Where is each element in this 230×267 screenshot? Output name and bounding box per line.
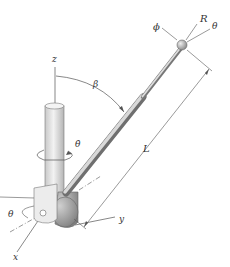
R-label: R <box>199 13 208 24</box>
x-axis-label: x <box>13 252 18 262</box>
pivot-pin <box>40 210 46 216</box>
theta-tip-direction-line <box>187 29 210 42</box>
theta-base-rotation-arrow <box>0 197 35 218</box>
L-arrowhead-bottom <box>84 221 88 227</box>
beta-label: β <box>92 79 98 89</box>
theta-base-label: θ <box>8 209 14 219</box>
clevis-block <box>34 184 57 223</box>
L-extension-top <box>187 50 212 71</box>
theta-tip-label: θ <box>212 21 218 31</box>
boom-upper-highlight <box>143 47 182 97</box>
L-label: L <box>142 143 150 154</box>
vertical-column <box>45 106 64 196</box>
robot-arm-diagram: z β θ̇ y x θ ϕ R θ L <box>0 0 230 267</box>
phi-direction-line <box>162 28 177 40</box>
phi-label: ϕ <box>153 21 160 32</box>
L-arrowhead-top <box>205 69 209 75</box>
y-axis-line <box>75 217 115 225</box>
theta-dot-label: θ̇ <box>75 139 81 149</box>
beta-arc <box>56 76 124 112</box>
z-axis-label: z <box>51 54 57 64</box>
y-axis-label: y <box>118 214 125 224</box>
end-ball <box>177 40 187 50</box>
column-top-cap <box>45 103 64 109</box>
